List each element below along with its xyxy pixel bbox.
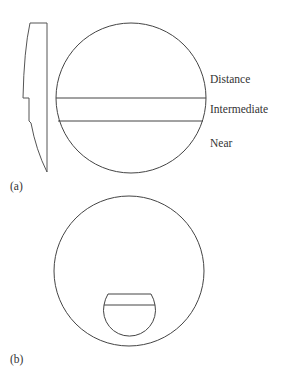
bifocal-lens-circle [54,196,204,346]
segment-outline [104,294,156,336]
label-distance: Distance [210,73,250,85]
lens-profile [23,23,47,172]
label-near: Near [210,137,232,149]
panel-a-label: (a) [10,180,23,192]
lens-diagram [0,0,282,369]
panel-b-label: (b) [10,353,23,365]
label-intermediate: Intermediate [210,103,268,115]
